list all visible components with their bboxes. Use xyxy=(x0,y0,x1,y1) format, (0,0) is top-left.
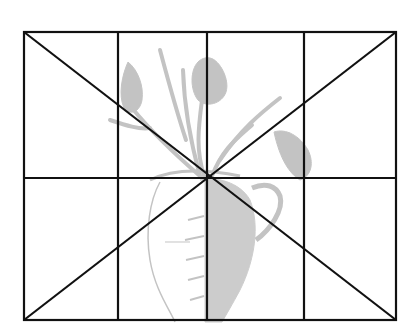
vase-outline xyxy=(148,182,175,322)
flower-vase-sketch xyxy=(110,50,311,322)
grid-construction-diagram xyxy=(0,0,409,334)
vase-hatching xyxy=(165,216,204,300)
tulip-right xyxy=(274,131,311,180)
tulip-left xyxy=(121,62,142,112)
tulip-center xyxy=(192,58,227,104)
vase-shaded-side xyxy=(200,179,255,322)
